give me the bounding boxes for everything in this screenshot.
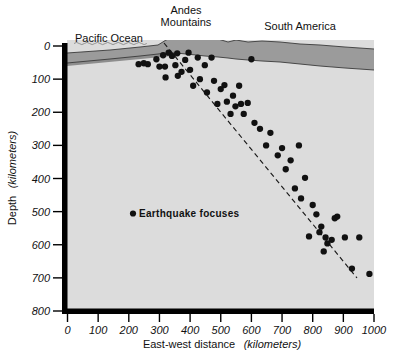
earthquake-focus-dot-icon bbox=[130, 210, 136, 216]
earthquake-focus-dot bbox=[263, 142, 269, 148]
earthquake-focus-dot bbox=[241, 111, 247, 117]
earthquake-focus-dot bbox=[208, 54, 214, 60]
y-axis-tick-label: 0 bbox=[44, 40, 51, 52]
earthquake-focus-dot bbox=[202, 62, 208, 68]
earthquake-focus-dot bbox=[306, 233, 312, 239]
x-axis-tick-label: 700 bbox=[273, 324, 292, 336]
earthquake-focus-dot bbox=[366, 271, 372, 277]
earthquake-focus-dot bbox=[162, 74, 168, 80]
earthquake-focus-dot bbox=[156, 63, 162, 69]
legend: Earthquake focuses bbox=[130, 208, 240, 219]
earthquake-focus-dot bbox=[172, 62, 178, 68]
earthquake-focus-dot bbox=[238, 101, 244, 107]
earthquake-focus-dot bbox=[251, 120, 257, 126]
x-axis-tick-label: 200 bbox=[119, 324, 139, 336]
y-axis-title-units: (kilometers) bbox=[6, 131, 18, 189]
earthquake-focus-dot bbox=[322, 234, 328, 240]
mantle-layer bbox=[67, 40, 374, 311]
earthquake-focus-dot bbox=[197, 76, 203, 82]
x-axis-tick-label: 500 bbox=[212, 324, 231, 336]
earthquake-focus-dot bbox=[318, 223, 324, 229]
y-axis-tick-label: 400 bbox=[32, 173, 51, 185]
earthquake-focus-dot bbox=[329, 237, 335, 243]
earthquake-focus-dot bbox=[316, 229, 322, 235]
x-axis-tick-label: 300 bbox=[150, 324, 169, 336]
earthquake-focus-dot bbox=[190, 83, 196, 89]
earthquake-focus-dot bbox=[245, 100, 251, 106]
earthquake-focus-dot bbox=[313, 211, 319, 217]
earthquake-focus-dot bbox=[178, 69, 184, 75]
y-axis-title-plain: Depth bbox=[6, 196, 18, 225]
x-axis-tick-label: 0 bbox=[64, 324, 71, 336]
earthquake-focus-dot bbox=[162, 63, 168, 69]
x-axis-tick-label: 600 bbox=[242, 324, 261, 336]
x-axis-tick-label: 400 bbox=[181, 324, 200, 336]
earthquake-focus-dot bbox=[145, 61, 151, 67]
earthquake-focus-dot bbox=[185, 49, 191, 55]
earthquake-focus-dot bbox=[230, 93, 236, 99]
earthquake-focus-dot bbox=[174, 50, 180, 56]
x-axis-tick-label: 800 bbox=[304, 324, 323, 336]
earthquake-focus-dot bbox=[310, 202, 316, 208]
label-pacific-ocean: Pacific Ocean bbox=[75, 32, 143, 44]
earthquake-focus-dot bbox=[321, 248, 327, 254]
earthquake-focus-dot bbox=[214, 101, 220, 107]
legend-label: Earthquake focuses bbox=[139, 208, 240, 219]
earthquake-focus-dot bbox=[283, 166, 289, 172]
earthquake-focus-dot bbox=[275, 152, 281, 158]
label-south-america: South America bbox=[264, 20, 336, 32]
x-axis-title-plain: East-west distance bbox=[143, 338, 235, 350]
earthquake-focus-dot bbox=[296, 142, 302, 148]
earthquake-focus-dot bbox=[224, 99, 230, 105]
earthquake-focus-dot bbox=[204, 89, 210, 95]
y-axis-spine bbox=[62, 43, 68, 314]
y-axis-tick-label: 700 bbox=[32, 272, 51, 284]
earthquake-focus-dot bbox=[135, 61, 141, 67]
x-axis-tick-label: 1000 bbox=[362, 324, 387, 336]
y-axis-tick-label: 100 bbox=[32, 73, 51, 85]
earthquake-focus-dot bbox=[292, 185, 298, 191]
y-axis-tick-labels: 0100200300400500600700800 bbox=[31, 40, 51, 317]
earthquake-focus-dot bbox=[302, 175, 308, 181]
x-axis-spine bbox=[62, 309, 374, 315]
y-axis-tick-label: 800 bbox=[32, 305, 51, 317]
earthquake-focus-dot bbox=[236, 83, 242, 89]
earthquake-focus-dot bbox=[187, 67, 193, 73]
earthquake-focus-dot bbox=[279, 145, 285, 151]
y-axis-tick-label: 500 bbox=[32, 206, 51, 218]
earthquake-focus-dot bbox=[342, 234, 348, 240]
label-andes-line1: Andes bbox=[170, 4, 202, 16]
earthquake-focus-dot bbox=[287, 157, 293, 163]
earthquake-focus-dot bbox=[227, 111, 233, 117]
earthquake-focus-dot bbox=[211, 78, 217, 84]
label-andes-line2: Mountains bbox=[161, 16, 212, 28]
earthquake-focus-dot bbox=[195, 54, 201, 60]
x-axis-tick-label: 900 bbox=[334, 324, 353, 336]
earthquake-focus-dot bbox=[221, 82, 227, 88]
earthquake-focus-dot bbox=[267, 130, 273, 136]
x-axis-tick-label: 100 bbox=[89, 324, 108, 336]
y-axis-tick-label: 200 bbox=[31, 106, 51, 118]
earthquake-focus-dot bbox=[160, 52, 166, 58]
earthquake-focus-dot bbox=[356, 234, 362, 240]
y-axis-tick-label: 600 bbox=[32, 239, 51, 251]
earthquake-focus-dot bbox=[232, 103, 238, 109]
earthquake-focus-dot bbox=[153, 56, 159, 62]
earthquake-depth-cross-section: 0100200300400500600700800 01002003004005… bbox=[0, 0, 396, 362]
earthquake-focus-dot bbox=[334, 213, 340, 219]
earthquake-focus-dot bbox=[248, 56, 254, 62]
y-axis-tick-label: 300 bbox=[32, 139, 51, 151]
earthquake-focus-dot bbox=[349, 265, 355, 271]
x-axis-title-units: (kilometers) bbox=[244, 338, 302, 350]
earthquake-focus-dot bbox=[298, 195, 304, 201]
earthquake-focus-dot bbox=[182, 57, 188, 63]
earthquake-focus-dot bbox=[257, 126, 263, 132]
